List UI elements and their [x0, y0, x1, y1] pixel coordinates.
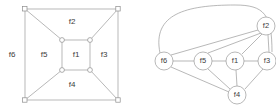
- dual-edge-f5-f4: [208, 69, 230, 89]
- dual-edge-f1-f4: [236, 70, 237, 86]
- figure-container: f1 f2 f3 f4 f5 f6: [0, 0, 276, 109]
- vertex-inner-bottom-right: [88, 68, 93, 73]
- dual-edge-f3-f2: [268, 35, 269, 52]
- diagonal-edge-top-left: [25, 9, 62, 40]
- diagonal-edge-top-right: [90, 9, 118, 40]
- planar-embedding-panel: f1 f2 f3 f4 f5 f6: [0, 0, 138, 109]
- face-label-f5: f5: [41, 50, 48, 59]
- dual-node-f6-label: f6: [161, 56, 167, 65]
- vertex-outer-bottom-left: [23, 98, 27, 102]
- dual-edge-f6-f3-arc: [159, 5, 272, 53]
- dual-edge-f6-f4: [171, 67, 229, 92]
- dual-node-f1[interactable]: f1: [226, 52, 244, 70]
- dual-node-f1-label: f1: [232, 56, 238, 65]
- vertex-outer-top-left: [23, 7, 27, 11]
- dual-graph-panel: f2 f6 f5 f1 f3 f4: [138, 0, 276, 109]
- diagonal-edge-bottom-right: [90, 70, 118, 100]
- vertex-inner-top-right: [88, 38, 93, 43]
- face-label-f4: f4: [69, 80, 76, 89]
- dual-node-f4-label: f4: [234, 90, 240, 99]
- dual-node-f3[interactable]: f3: [258, 52, 276, 70]
- dual-node-f5-label: f5: [200, 56, 206, 65]
- dual-node-f3-label: f3: [264, 56, 270, 65]
- dual-edge-f3-f4: [245, 69, 263, 89]
- vertex-inner-bottom-left: [60, 68, 65, 73]
- face-label-f6: f6: [9, 50, 16, 59]
- vertex-outer-bottom-right: [116, 98, 120, 102]
- dual-node-f4[interactable]: f4: [228, 86, 246, 104]
- dual-node-f5[interactable]: f5: [194, 52, 212, 70]
- face-label-f3: f3: [101, 50, 108, 59]
- face-label-f2: f2: [69, 17, 76, 26]
- dual-graph-svg: f2 f6 f5 f1 f3 f4: [138, 0, 276, 109]
- vertex-inner-top-left: [60, 38, 65, 43]
- dual-node-f2-label: f2: [263, 21, 269, 30]
- dual-node-f6[interactable]: f6: [155, 52, 173, 70]
- vertex-outer-top-right: [116, 7, 120, 11]
- face-label-f1: f1: [73, 50, 80, 59]
- dual-edge-f1-f2: [242, 34, 262, 54]
- planar-embedding-svg: f1 f2 f3 f4 f5 f6: [0, 0, 138, 109]
- dual-node-f2[interactable]: f2: [257, 17, 275, 35]
- diagonal-edge-bottom-left: [25, 70, 62, 100]
